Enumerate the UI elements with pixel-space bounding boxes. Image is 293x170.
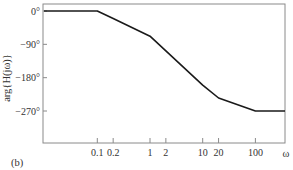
x-axis-label: ω — [283, 148, 290, 159]
phase-curve — [44, 11, 285, 111]
x-tick-label: 20 — [214, 147, 224, 158]
y-tick-label: 0° — [31, 6, 40, 17]
phase-plot: 0°−90°−180°−270° 0.10.2121020100 arg{H(j… — [0, 0, 293, 170]
panel-label: (b) — [11, 157, 24, 169]
y-axis-label: arg{H(jω)} — [1, 54, 13, 102]
x-tick-label: 0.2 — [107, 147, 120, 158]
x-axis-ticks: 0.10.2121020100 — [91, 138, 263, 158]
plot-frame — [43, 4, 285, 143]
x-tick-label: 0.1 — [91, 147, 104, 158]
y-axis-ticks: 0°−90°−180°−270° — [15, 6, 47, 117]
y-tick-label: −180° — [15, 72, 40, 83]
x-tick-label: 10 — [198, 147, 208, 158]
y-tick-label: −90° — [20, 39, 40, 50]
x-tick-label: 2 — [163, 147, 168, 158]
x-tick-label: 1 — [148, 147, 153, 158]
x-tick-label: 100 — [248, 147, 263, 158]
y-tick-label: −270° — [15, 106, 40, 117]
